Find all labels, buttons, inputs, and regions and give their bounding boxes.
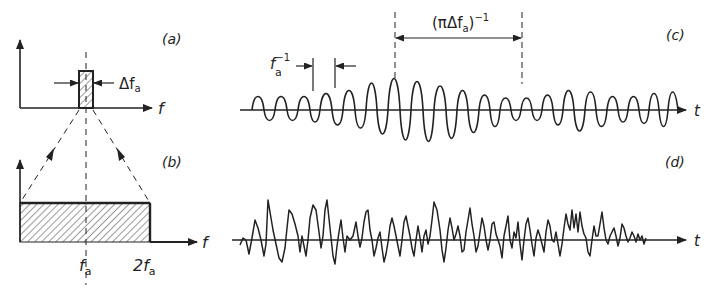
period-label-sub: a xyxy=(275,66,282,79)
panel-label-a: (a) xyxy=(162,31,182,47)
broadband-noise-signal xyxy=(240,200,646,264)
panel-b: f fa 2fa (b) xyxy=(20,154,210,278)
x-axis-label: f xyxy=(158,99,166,118)
panel-label-c: (c) xyxy=(666,27,685,43)
figure-canvas: Δfa f (a) f fa 2fa (b) t (c) f−1 a xyxy=(0,0,707,295)
panel-d: t (d) xyxy=(232,154,701,264)
panel-label-b: (b) xyxy=(162,154,182,170)
bandwidth-label: Δfa xyxy=(119,75,141,94)
envelope-label: (πΔfa)−1 xyxy=(432,12,489,34)
projection-lines xyxy=(20,110,150,203)
projection-arrowhead-right xyxy=(117,148,125,161)
broadband-spectrum xyxy=(20,203,150,242)
panel-label-d: (d) xyxy=(665,154,685,170)
panel-c: t (c) f−1 a (πΔfa)−1 xyxy=(240,12,701,142)
x-axis-label: f xyxy=(202,233,210,252)
tick-label-fa: fa xyxy=(79,256,91,278)
tick-label-2fa: 2fa xyxy=(133,256,156,278)
projection-arrowhead-left xyxy=(46,148,54,161)
panel-a: Δfa f (a) xyxy=(20,31,182,285)
time-axis-label: t xyxy=(694,102,701,120)
time-axis-label: t xyxy=(694,232,701,250)
